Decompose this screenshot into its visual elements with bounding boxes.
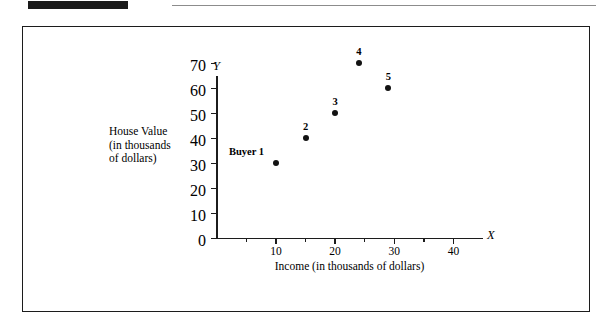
- y-axis-title-line: of dollars): [109, 152, 213, 166]
- x-tick-minor: [305, 238, 306, 242]
- x-axis-letter: X: [487, 228, 495, 243]
- x-tick-label: 10: [256, 246, 296, 258]
- y-axis-title: House Value(in thousandsof dollars): [109, 125, 213, 166]
- y-tick-label: 50: [178, 107, 206, 119]
- y-axis-title-line: (in thousands: [109, 139, 213, 153]
- data-point: [303, 135, 309, 141]
- data-point: [332, 110, 338, 116]
- x-tick-major: [394, 238, 395, 244]
- data-point: [385, 85, 391, 91]
- x-tick-label: 40: [433, 246, 473, 258]
- y-tick-label: 0: [178, 232, 206, 244]
- y-tick: [211, 188, 216, 189]
- x-tick-minor: [423, 238, 424, 242]
- y-tick: [211, 88, 216, 89]
- data-point: [273, 160, 279, 166]
- y-tick-label: 70: [178, 57, 206, 69]
- figure-frame: Y X 010203040506070 10203040 House Value…: [22, 26, 590, 312]
- y-tick: [211, 113, 216, 114]
- x-tick-label: 20: [315, 246, 355, 258]
- x-tick-minor: [364, 238, 365, 242]
- y-tick-label: 10: [178, 207, 206, 219]
- y-axis-title-line: House Value: [109, 125, 213, 139]
- data-point-label: 3: [323, 97, 347, 108]
- y-tick: [211, 63, 216, 64]
- x-tick-major: [275, 238, 276, 244]
- x-tick-minor: [246, 238, 247, 242]
- scatter-plot: Y X 010203040506070 10203040 House Value…: [23, 27, 591, 313]
- x-tick-major: [334, 238, 335, 244]
- y-tick-label: 60: [178, 82, 206, 94]
- data-point-label: 4: [347, 47, 371, 58]
- x-axis-title: Income (in thousands of dollars): [216, 261, 483, 273]
- x-tick-major: [453, 238, 454, 244]
- data-point-label: Buyer 1: [229, 147, 264, 158]
- y-axis-letter: Y: [213, 59, 220, 74]
- data-point-label: 2: [294, 122, 318, 133]
- x-axis-line: [216, 238, 483, 240]
- black-bar-decoration: [28, 1, 128, 9]
- horizontal-rule-decoration: [172, 5, 596, 6]
- y-tick: [211, 213, 216, 214]
- y-tick: [211, 238, 216, 239]
- data-point: [356, 60, 362, 66]
- data-point-label: 5: [376, 72, 400, 83]
- x-tick-label: 30: [374, 246, 414, 258]
- y-axis-line: [216, 76, 218, 239]
- y-tick-label: 20: [178, 182, 206, 194]
